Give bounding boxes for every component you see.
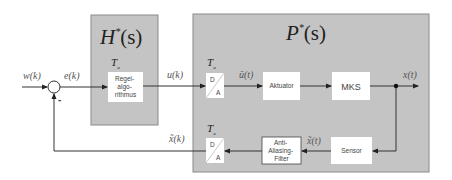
branch-point: [394, 84, 398, 88]
sensor-block: Sensor: [331, 137, 372, 164]
mks-block: MKS: [332, 72, 370, 100]
signal-ubar-label: ū(t): [239, 69, 254, 81]
signal-x-label: x(t): [402, 69, 418, 81]
svg-text:MKS: MKS: [341, 82, 361, 92]
svg-text:D: D: [210, 141, 215, 148]
svg-text:Aktuator: Aktuator: [269, 82, 294, 89]
signal-u-label: u(k): [167, 69, 184, 81]
minus-sign: -: [58, 94, 61, 105]
summing-junction: -: [48, 81, 61, 105]
controller-group: H*(s): [91, 15, 158, 125]
svg-text:D: D: [210, 76, 215, 83]
svg-text:A: A: [216, 89, 221, 96]
controller-group-title: H*(s): [99, 25, 142, 49]
signal-xtilde-k-label: x̃(k): [168, 133, 185, 145]
plant-group: P*(s): [193, 14, 429, 172]
block-diagram: H*(s) P*(s) - Regel- algo- rithmus Ta: [0, 0, 452, 180]
aktuator-block: Aktuator: [263, 72, 300, 100]
svg-text:A: A: [216, 154, 221, 161]
anti-aliasing-filter-block: Anti- Aliasing- Filter: [262, 137, 301, 164]
signal-e-label: e(k): [64, 70, 80, 82]
signal-xtilde-t-label: x̃(t): [306, 135, 322, 147]
svg-text:Regel- algo- rithm: Regel- algo- rithmus: [115, 75, 137, 98]
plant-group-title: P*(s): [285, 21, 326, 45]
svg-text:Sensor: Sensor: [341, 147, 362, 154]
signal-w-label: w(k): [23, 70, 41, 82]
